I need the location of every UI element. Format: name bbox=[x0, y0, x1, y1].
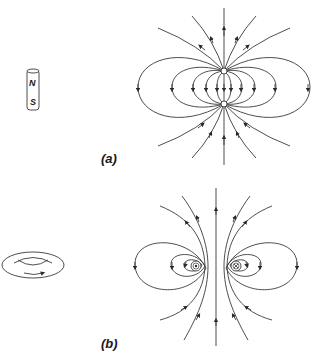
field-line bbox=[224, 71, 231, 104]
figure-canvas: N S (a) bbox=[0, 0, 312, 362]
field-lines-b bbox=[135, 188, 297, 346]
caption-a: (a) bbox=[101, 151, 117, 166]
field-arrow bbox=[243, 46, 248, 50]
field-line bbox=[138, 58, 224, 118]
field-line bbox=[172, 67, 224, 107]
panel-a: N S (a) bbox=[27, 8, 310, 166]
field-arrow bbox=[185, 262, 186, 266]
field-line bbox=[158, 104, 224, 146]
current-direction-arrow bbox=[24, 273, 43, 275]
field-line bbox=[224, 104, 290, 146]
magnet-south-label: S bbox=[30, 97, 36, 107]
south-pole-marker bbox=[221, 101, 227, 107]
bar-magnet: N S bbox=[27, 69, 39, 110]
field-line bbox=[158, 28, 224, 71]
field-arrow bbox=[200, 46, 205, 50]
magnet-north-label: N bbox=[29, 78, 36, 88]
field-line bbox=[224, 71, 242, 104]
field-line bbox=[224, 67, 276, 107]
north-pole-marker bbox=[221, 68, 227, 74]
field-line bbox=[206, 71, 224, 104]
field-arrow bbox=[242, 222, 246, 227]
current-loop-ring bbox=[2, 252, 64, 278]
current-out-of-page-icon bbox=[191, 261, 201, 271]
field-line bbox=[224, 58, 310, 118]
field-arrow bbox=[246, 262, 247, 266]
caption-b: (b) bbox=[101, 336, 118, 351]
field-lines-a bbox=[138, 8, 310, 165]
field-arrow bbox=[186, 222, 190, 227]
panel-b: (b) bbox=[2, 188, 297, 351]
field-line bbox=[217, 71, 224, 104]
current-into-page-icon bbox=[231, 261, 241, 271]
field-line bbox=[224, 28, 290, 71]
